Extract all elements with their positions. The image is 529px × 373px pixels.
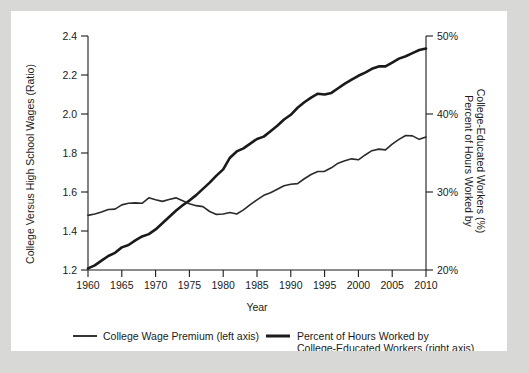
ytick-1-6: 1.6	[62, 186, 77, 198]
x-axis-tick-labels: 1960 1965 1970 1975 1980 1985 1990 1995 …	[76, 279, 438, 291]
ytick-1-8: 1.8	[62, 147, 77, 159]
ytick-1-4: 1.4	[62, 225, 77, 237]
xtick-1995: 1995	[313, 279, 337, 291]
chart-canvas: College Versus High School Wages (Ratio)…	[11, 11, 507, 351]
xtick-2000: 2000	[347, 279, 371, 291]
xtick-1965: 1965	[110, 279, 134, 291]
figure-card: College Versus High School Wages (Ratio)…	[11, 11, 507, 351]
legend-label-wage-premium: College Wage Premium (left axis)	[103, 330, 259, 342]
xtick-2010: 2010	[414, 279, 438, 291]
y2tick-40: 40%	[437, 108, 458, 120]
y2tick-20: 20%	[437, 264, 458, 276]
xtick-1960: 1960	[76, 279, 100, 291]
xtick-1980: 1980	[212, 279, 236, 291]
left-axis-ticks	[81, 36, 88, 270]
series-line-college-wage-premium	[88, 135, 426, 215]
x-axis-ticks	[88, 270, 426, 277]
xtick-1985: 1985	[245, 279, 269, 291]
legend-label-hours-worked-line1: Percent of Hours Worked by	[297, 330, 429, 342]
y-axis-title: College Versus High School Wages (Ratio)	[24, 64, 36, 264]
xtick-1990: 1990	[279, 279, 303, 291]
right-axis-tick-labels: 50% 40% 30% 20%	[437, 30, 458, 276]
xtick-1975: 1975	[178, 279, 202, 291]
legend-label-hours-worked-line2: College-Educated Workers (right axis)	[297, 342, 474, 351]
y2tick-50: 50%	[437, 30, 458, 42]
series-line-percent-hours-worked	[88, 48, 426, 268]
x-axis-title: Year	[246, 301, 268, 313]
y2tick-30: 30%	[437, 186, 458, 198]
left-axis-tick-labels: 2.4 2.2 2.0 1.8 1.6 1.4 1.2	[62, 30, 77, 276]
xtick-1970: 1970	[144, 279, 168, 291]
right-axis-ticks	[426, 36, 433, 270]
y2-axis-title-line1: Percent of Hours Worked by	[463, 95, 475, 227]
ytick-2-4: 2.4	[62, 30, 77, 42]
ytick-1-2: 1.2	[62, 264, 77, 276]
ytick-2-2: 2.2	[62, 69, 77, 81]
xtick-2005: 2005	[381, 279, 405, 291]
chart-legend: College Wage Premium (left axis) Percent…	[73, 330, 474, 351]
y2-axis-title-line2: College-Educated Workers (%)	[475, 89, 487, 234]
ytick-2-0: 2.0	[62, 108, 77, 120]
